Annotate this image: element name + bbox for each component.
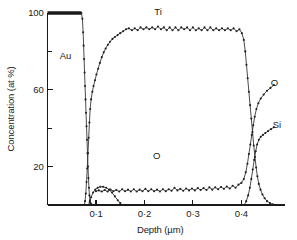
data-point xyxy=(142,28,144,30)
data-point xyxy=(111,38,113,40)
data-point xyxy=(130,191,132,193)
y-axis-title: Concentration (at %) xyxy=(5,66,16,151)
data-point xyxy=(186,26,188,28)
series-label-ti: Ti xyxy=(154,6,161,17)
data-point xyxy=(182,190,184,192)
data-point xyxy=(87,152,89,154)
data-point xyxy=(160,28,162,30)
data-point xyxy=(162,188,164,190)
data-point xyxy=(266,200,268,202)
data-point xyxy=(173,187,175,189)
data-point xyxy=(159,191,161,193)
data-point xyxy=(84,85,86,87)
data-point xyxy=(145,26,147,28)
data-point xyxy=(119,202,121,204)
data-point xyxy=(82,31,84,33)
data-point xyxy=(198,27,200,29)
data-point xyxy=(144,188,146,190)
data-point xyxy=(136,191,138,193)
data-point xyxy=(253,159,255,161)
data-point xyxy=(267,130,269,132)
data-point xyxy=(185,187,187,189)
data-point xyxy=(85,112,87,114)
series-path xyxy=(84,26,273,205)
data-point xyxy=(258,183,260,185)
data-point xyxy=(221,27,223,29)
data-point xyxy=(172,29,174,31)
data-point xyxy=(85,125,87,127)
data-point xyxy=(262,134,264,136)
y-tick-label: 100 xyxy=(28,7,43,18)
data-point xyxy=(94,79,96,81)
data-point xyxy=(115,189,117,191)
data-point xyxy=(212,29,214,31)
data-point xyxy=(245,200,247,202)
data-point xyxy=(80,12,82,14)
data-point xyxy=(84,71,86,73)
data-point xyxy=(84,200,86,202)
data-point xyxy=(179,188,181,190)
x-tick-label: 0·4 xyxy=(235,208,248,219)
data-point xyxy=(95,190,97,192)
data-curves xyxy=(48,13,274,205)
x-axis-title: Depth (µm) xyxy=(137,224,184,235)
data-point xyxy=(97,68,99,70)
series-label-si: Si xyxy=(273,119,281,130)
data-point xyxy=(83,204,85,206)
data-point xyxy=(252,124,254,126)
data-point xyxy=(270,128,272,130)
data-point xyxy=(192,26,194,28)
data-point xyxy=(117,199,119,201)
data-point xyxy=(89,108,91,110)
data-point xyxy=(243,39,245,41)
data-point xyxy=(156,189,158,191)
data-point xyxy=(165,190,167,192)
data-point xyxy=(205,189,207,191)
data-point xyxy=(259,189,261,191)
data-point xyxy=(134,27,136,29)
x-tick-label: 0·3 xyxy=(186,208,199,219)
data-point xyxy=(195,29,197,31)
data-point xyxy=(91,91,93,93)
data-point xyxy=(264,132,266,134)
series-label-o: O xyxy=(153,150,160,161)
data-point xyxy=(223,188,225,190)
data-point xyxy=(174,26,176,28)
y-tick-label: 60 xyxy=(33,84,43,95)
data-point xyxy=(88,121,90,123)
data-point xyxy=(101,56,103,58)
data-point xyxy=(109,41,111,43)
data-point xyxy=(240,182,242,184)
data-point xyxy=(261,193,263,195)
data-point xyxy=(263,94,265,96)
data-point xyxy=(218,29,220,31)
data-point xyxy=(269,202,271,204)
data-point xyxy=(163,26,165,28)
data-point xyxy=(112,190,114,192)
series-path xyxy=(96,85,274,192)
data-point xyxy=(254,156,256,158)
data-point xyxy=(203,187,205,189)
data-point xyxy=(197,187,199,189)
data-point xyxy=(250,118,252,120)
data-point xyxy=(81,18,83,20)
data-point xyxy=(209,26,211,28)
series-label-o: O xyxy=(271,77,278,88)
x-axis-ticks: 0·10·20·30·4 xyxy=(89,200,248,219)
data-point xyxy=(171,190,173,192)
data-point xyxy=(250,178,252,180)
data-point xyxy=(256,143,258,145)
data-point xyxy=(99,62,101,64)
data-point xyxy=(249,104,251,106)
data-point xyxy=(150,188,152,190)
data-point xyxy=(253,144,255,146)
data-point xyxy=(105,47,107,49)
data-point xyxy=(83,58,85,60)
data-point xyxy=(109,189,111,191)
data-point xyxy=(208,186,210,188)
data-point xyxy=(85,98,87,100)
data-point xyxy=(89,199,91,201)
data-point xyxy=(257,102,259,104)
data-point xyxy=(177,29,179,31)
data-point xyxy=(220,186,222,188)
